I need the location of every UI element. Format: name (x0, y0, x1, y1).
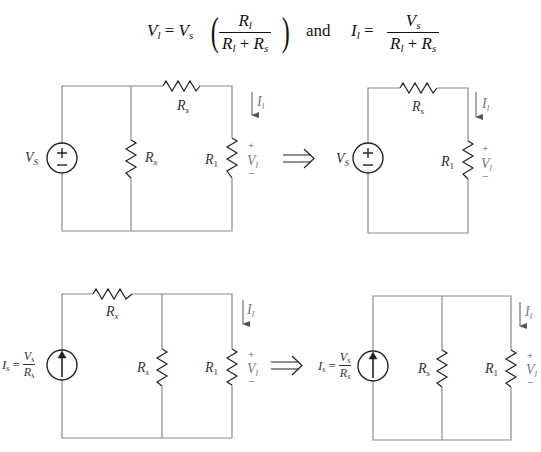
var-r: R (137, 360, 146, 375)
var-r: R (412, 99, 421, 114)
shunt-resistor-zigzag (437, 350, 447, 387)
current-label: Il (257, 95, 264, 111)
transform-arrow-bottom (271, 356, 302, 375)
load-resistor-label: R1 (485, 362, 498, 378)
transform-arrow-top (283, 149, 314, 168)
source-equation: Is = Vs Rs (2, 349, 35, 380)
var-r: R (177, 98, 186, 113)
source-fraction: Vs Rs (23, 349, 35, 380)
sub-1: 1 (494, 368, 499, 378)
circuit-diagrams (0, 0, 541, 452)
minus-sign: − (248, 168, 254, 179)
var-v: V (25, 150, 34, 165)
shunt-resistor-zigzag (126, 140, 136, 178)
plus-icon (57, 148, 67, 158)
sub-l: l (487, 103, 490, 113)
plus-sign: + (482, 143, 488, 154)
wire (62, 294, 93, 350)
wire (132, 294, 232, 349)
var-v: V (481, 156, 490, 171)
source-label: VS (336, 152, 349, 168)
load-resistor-label: R1 (441, 155, 454, 171)
sub-s: S (34, 157, 39, 167)
plus-sign: + (248, 140, 254, 151)
up-arrow-head (58, 351, 66, 358)
up-arrow-head (369, 352, 377, 359)
fraction-numerator: Vs (23, 349, 35, 364)
sub-l: l (262, 101, 265, 111)
var-r: R (106, 304, 115, 319)
sub-l: l (530, 311, 533, 321)
series-resistor-label: Rx (106, 305, 119, 321)
series-resistor-label: Rs (177, 99, 189, 115)
shunt-resistor-label: Rs (418, 362, 430, 378)
fraction-denominator: Rs (23, 364, 35, 380)
sub-l: l (252, 309, 255, 319)
minus-sign: − (482, 171, 488, 182)
source-fraction: Vs Rs (339, 350, 351, 381)
sub-1: 1 (450, 161, 455, 171)
load-resistor-zigzag (506, 350, 516, 387)
shunt-resistor-label: Rx (145, 151, 158, 167)
sub-s: s (347, 372, 350, 381)
sub-1: 1 (214, 159, 219, 169)
sub-s: s (31, 371, 34, 380)
sub-l: l (256, 368, 259, 378)
sub-s: s (322, 365, 325, 374)
load-resistor-label: R1 (205, 153, 218, 169)
source-current-var: Is (318, 358, 325, 374)
wire (368, 88, 400, 143)
sub-s: s (421, 106, 425, 116)
fraction-numerator: Vs (339, 350, 351, 365)
var-r: R (205, 152, 214, 167)
source-equation: Is = Vs Rs (318, 350, 351, 381)
var-r: R (441, 154, 450, 169)
load-resistor-zigzag (463, 141, 473, 179)
wire (62, 173, 232, 231)
load-resistor-label: R1 (205, 361, 218, 377)
series-resistor-zigzag (93, 289, 132, 299)
series-resistor-zigzag (163, 81, 200, 91)
source-label: VS (25, 151, 38, 167)
sub-l: l (256, 160, 259, 170)
var-v: V (247, 153, 256, 168)
shunt-resistor-zigzag (157, 349, 167, 386)
plus-sign: + (527, 350, 533, 361)
series-resistor-label: Rs (412, 100, 424, 116)
current-label: Il (482, 97, 489, 113)
sub-s: s (427, 368, 431, 378)
minus-sign: − (527, 377, 533, 388)
wire (62, 380, 232, 438)
var-r: R (418, 361, 427, 376)
wire (437, 88, 468, 141)
sub-s: S (345, 158, 350, 168)
current-label: Il (247, 303, 254, 319)
shunt-resistor-label: Rs (137, 361, 149, 377)
equals-sign: = (12, 357, 19, 373)
var-v: V (247, 361, 256, 376)
fraction-denominator: Rs (339, 365, 351, 381)
sub-s: s (6, 364, 9, 373)
wire (62, 86, 163, 143)
sub-x: x (154, 157, 158, 167)
var-v: V (336, 151, 345, 166)
minus-sign: − (248, 376, 254, 387)
sub-s: s (186, 105, 190, 115)
source-current-var: Is (2, 357, 9, 373)
wire (200, 86, 232, 138)
sub-1: 1 (214, 367, 219, 377)
var-r: R (145, 150, 154, 165)
sub-s: s (146, 367, 150, 377)
sub-s: s (31, 355, 34, 364)
plus-icon (363, 148, 373, 158)
var-r: R (205, 360, 214, 375)
var-r: R (485, 361, 494, 376)
var-v: V (526, 362, 535, 377)
series-resistor-zigzag (400, 83, 437, 93)
sub-l: l (490, 163, 493, 173)
equals-sign: = (328, 358, 335, 374)
sub-l: l (535, 369, 538, 379)
sub-x: x (115, 311, 119, 321)
plus-sign: + (248, 349, 254, 360)
current-label: Il (525, 305, 532, 321)
